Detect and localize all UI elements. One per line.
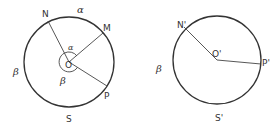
label-O: O <box>65 60 72 70</box>
label-inner-alpha: α <box>68 43 74 52</box>
radius-ON <box>48 21 69 62</box>
label-outer-beta: β <box>12 66 19 77</box>
label-N: N <box>42 9 49 19</box>
right-diagram: N' P' S' O' β <box>155 16 270 123</box>
radius-OP <box>69 62 107 86</box>
radius-OM <box>69 33 103 62</box>
left-diagram: N M P S O α α β β <box>12 4 114 124</box>
label-P: P <box>104 91 110 101</box>
label-N-prime: N' <box>177 20 186 30</box>
label-inner-beta: β <box>59 75 66 86</box>
label-S: S <box>66 114 72 124</box>
label-P-prime: P' <box>262 58 270 68</box>
label-M: M <box>103 23 111 33</box>
label-O-prime: O' <box>212 49 222 59</box>
diagram-canvas: N M P S O α α β β N' P' S' O' β <box>0 0 278 132</box>
label-outer-alpha: α <box>77 4 84 15</box>
radius-O'P' <box>217 60 261 64</box>
label-S-prime: S' <box>215 113 223 123</box>
label-right-beta: β <box>155 63 162 74</box>
angle-alpha-arc <box>65 52 78 56</box>
